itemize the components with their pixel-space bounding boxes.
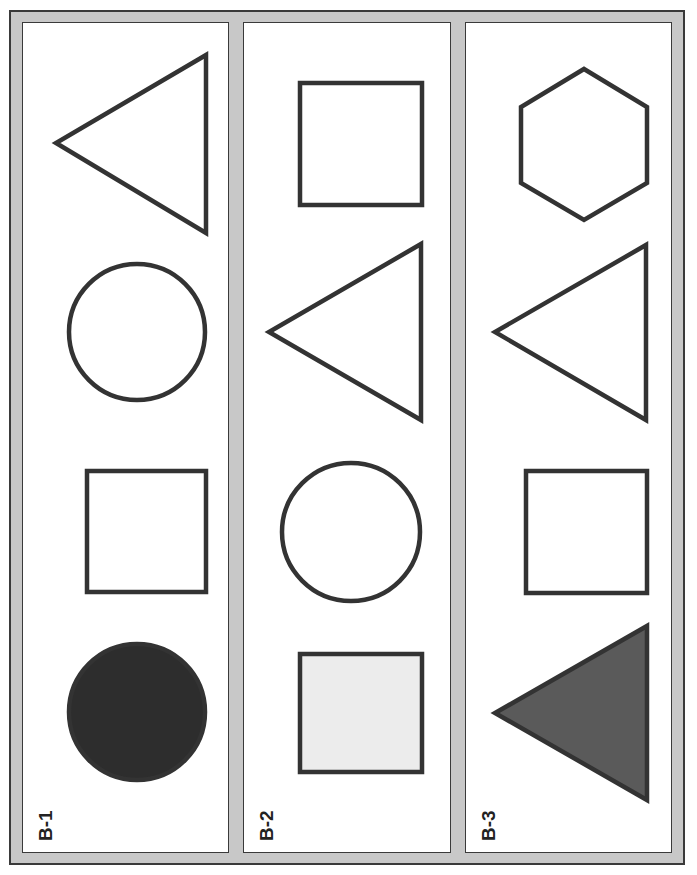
b3-hexagon-outline bbox=[521, 69, 647, 220]
b1-square-outline bbox=[87, 471, 206, 592]
b1-circle-outline bbox=[69, 264, 205, 400]
b1-triangle-outline bbox=[56, 55, 206, 233]
b3-square-outline bbox=[526, 471, 647, 593]
b3-triangle-filled-mid bbox=[495, 626, 647, 800]
shapes-layer bbox=[0, 0, 697, 875]
b2-triangle-outline bbox=[269, 244, 421, 420]
b3-triangle-outline bbox=[495, 245, 646, 420]
panel-label-b2: B-2 bbox=[257, 810, 276, 841]
panel-label-b3: B-3 bbox=[479, 810, 498, 841]
panel-label-b1: B-1 bbox=[36, 810, 55, 841]
b2-circle-outline bbox=[282, 463, 420, 601]
b2-square-outline bbox=[300, 83, 422, 205]
b2-square-filled-light bbox=[300, 654, 422, 772]
b1-circle-filled-dark bbox=[69, 644, 205, 780]
